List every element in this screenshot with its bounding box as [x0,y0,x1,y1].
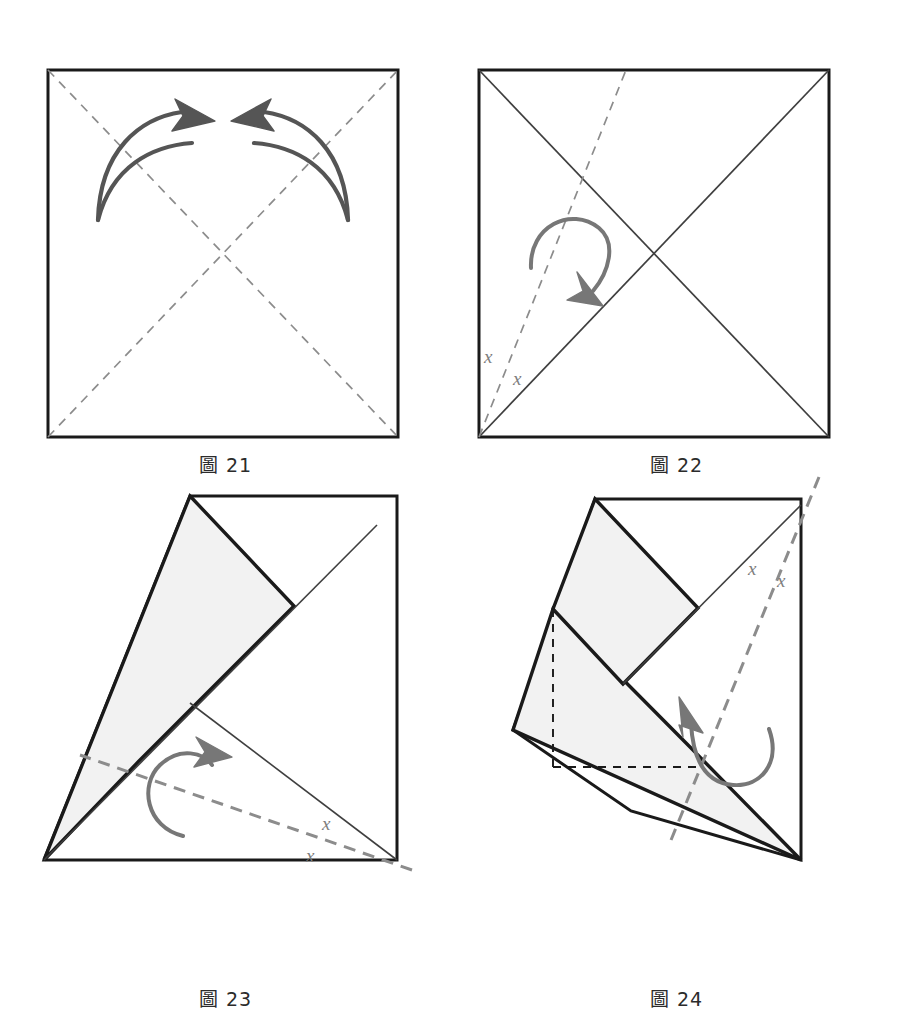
instruction-sheet: 圖 21 x [0,0,902,1009]
diagram-22: x x [451,0,902,420]
figure-caption-24: 圖 24 [650,990,703,1009]
diagram-21 [0,0,451,420]
figure-panel-22: x x 圖 22 [451,0,902,475]
figure-drawing-21 [0,0,451,454]
angle-label-x-lower: x [305,845,315,866]
figure-panel-21: 圖 21 [0,0,451,475]
angle-label-x-left: x [747,558,757,579]
angle-label-x-right: x [776,570,786,591]
figure-drawing-23: x x [0,475,451,984]
figure-drawing-22: x x [451,0,902,454]
figure-caption-23: 圖 23 [199,990,252,1009]
angle-label-x-left: x [483,346,493,367]
angle-label-x-upper: x [321,813,331,834]
figure-panel-23: x x 圖 23 [0,475,451,1009]
figure-caption-21: 圖 21 [199,456,252,475]
figure-caption-22: 圖 22 [650,456,703,475]
diagram-24: x x [451,475,902,905]
figure-grid: 圖 21 x [0,0,902,1009]
angle-label-x-right: x [512,368,522,389]
figure-panel-24: x x 圖 24 [451,475,902,1009]
diagram-23: x x [0,475,451,905]
figure-drawing-24: x x [451,475,902,984]
